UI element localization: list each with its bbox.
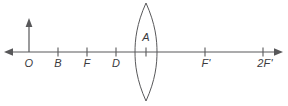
label-point-B: B [54, 58, 62, 69]
label-point-F: F [84, 58, 91, 69]
label-point-D: D [112, 58, 120, 69]
label-point-O: O [25, 58, 34, 69]
optics-lens-diagram: O B F D F' 2F' A [0, 0, 288, 106]
axis-right-arrowhead [274, 48, 283, 56]
label-point-F-prime: F' [201, 58, 210, 69]
label-point-2F-prime: 2F' [257, 58, 273, 69]
axis-left-arrowhead [4, 48, 13, 56]
object-arrow-group [26, 18, 33, 52]
object-arrow-head [26, 18, 33, 27]
principal-axis-group [4, 48, 283, 56]
diagram-canvas [0, 0, 288, 106]
label-point-A: A [142, 32, 149, 43]
